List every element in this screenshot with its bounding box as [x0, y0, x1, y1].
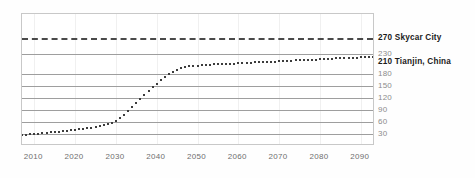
x-label-2070: 2070 — [269, 152, 288, 161]
x-label-2020: 2020 — [65, 152, 84, 161]
data-point — [303, 59, 305, 61]
x-label-2030: 2030 — [105, 152, 124, 161]
y-label-150: 150 — [378, 81, 392, 90]
data-point — [127, 110, 129, 112]
data-point — [343, 57, 345, 59]
vgridline-2010 — [34, 14, 35, 144]
data-point — [266, 61, 268, 63]
vgridline-2050 — [198, 14, 199, 144]
gridline-30 — [22, 134, 373, 135]
gridline-150 — [22, 86, 373, 87]
data-point — [348, 57, 350, 59]
vgridline-2070 — [279, 14, 280, 144]
data-point — [205, 64, 207, 66]
data-point — [70, 129, 72, 131]
data-point — [188, 65, 190, 67]
data-point — [246, 62, 248, 64]
vgridline-2020 — [75, 14, 76, 144]
data-point — [143, 94, 145, 96]
data-point — [372, 56, 374, 58]
data-point — [254, 61, 256, 63]
y-label-180: 180 — [378, 69, 392, 78]
data-point — [78, 128, 80, 130]
data-point — [331, 58, 333, 60]
data-point — [152, 86, 154, 88]
data-point — [95, 126, 97, 128]
data-point — [278, 60, 280, 62]
data-point — [270, 61, 272, 63]
data-point — [368, 56, 370, 58]
data-point — [360, 56, 362, 58]
vgridline-2080 — [320, 14, 321, 144]
data-point — [364, 56, 366, 58]
data-point — [229, 63, 231, 65]
data-point — [131, 106, 133, 108]
data-point — [115, 120, 117, 122]
data-point — [111, 122, 113, 124]
data-point — [82, 128, 84, 130]
data-point — [339, 57, 341, 59]
data-point — [184, 66, 186, 68]
data-point — [139, 98, 141, 100]
data-point — [221, 63, 223, 65]
data-point — [290, 60, 292, 62]
x-label-2080: 2080 — [309, 152, 328, 161]
data-point — [262, 61, 264, 63]
data-point — [37, 133, 39, 135]
vgridline-2030 — [116, 14, 117, 144]
data-point — [119, 117, 121, 119]
data-point — [164, 76, 166, 78]
data-point — [62, 130, 64, 132]
data-point — [286, 60, 288, 62]
x-label-2060: 2060 — [228, 152, 247, 161]
data-point — [66, 130, 68, 132]
data-point — [307, 59, 309, 61]
data-point — [107, 123, 109, 125]
data-point — [250, 62, 252, 64]
data-point — [233, 63, 235, 65]
data-point — [209, 64, 211, 66]
data-point — [21, 134, 23, 136]
gridline-90 — [22, 110, 373, 111]
vgridline-2090 — [361, 14, 362, 144]
data-point — [197, 65, 199, 67]
data-point — [282, 60, 284, 62]
data-point — [168, 73, 170, 75]
data-point — [213, 63, 215, 65]
x-label-2050: 2050 — [187, 152, 206, 161]
data-point — [201, 64, 203, 66]
data-point — [123, 114, 125, 116]
vgridline-2060 — [238, 14, 239, 144]
y-label-30: 30 — [378, 129, 387, 138]
data-point — [86, 127, 88, 129]
data-point — [180, 67, 182, 69]
gridline-230 — [22, 54, 373, 55]
data-point — [315, 59, 317, 61]
data-point — [74, 129, 76, 131]
plot-area — [21, 13, 374, 145]
x-label-2010: 2010 — [24, 152, 43, 161]
data-point — [327, 58, 329, 60]
x-label-2040: 2040 — [146, 152, 165, 161]
data-point — [50, 131, 52, 133]
data-point — [41, 132, 43, 134]
data-point — [274, 61, 276, 63]
vgridline-2040 — [157, 14, 158, 144]
data-point — [295, 59, 297, 61]
data-point — [135, 102, 137, 104]
data-point — [352, 57, 354, 59]
data-point — [29, 133, 31, 135]
data-point — [54, 131, 56, 133]
x-label-2090: 2090 — [350, 152, 369, 161]
data-point — [225, 63, 227, 65]
data-point — [335, 57, 337, 59]
y-label-210: 210 Tianjin, China — [378, 57, 451, 66]
data-point — [33, 133, 35, 135]
data-point — [90, 127, 92, 129]
data-point — [148, 90, 150, 92]
chart-canvas: 270 Skycar City230210 Tianjin, China1801… — [0, 0, 475, 178]
y-label-90: 90 — [378, 105, 387, 114]
data-point — [299, 59, 301, 61]
data-point — [156, 83, 158, 85]
data-point — [46, 132, 48, 134]
